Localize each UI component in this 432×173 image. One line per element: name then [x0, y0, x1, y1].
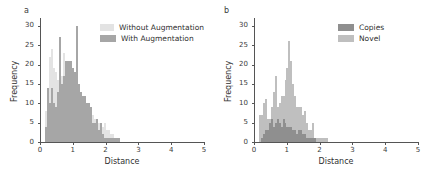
xaxis-tick-mark [40, 142, 41, 145]
xaxis-tick-mark [385, 142, 386, 145]
yaxis-tick-label: 25 [230, 42, 248, 49]
yaxis-tick-mark [38, 84, 41, 85]
legend-label: Without Augmentation [119, 24, 204, 32]
panel-a: a 051015202530012345 Distance Frequency … [0, 0, 216, 173]
xaxis-tick-mark [106, 142, 107, 145]
xaxis-tick-label: 4 [375, 147, 395, 154]
xaxis-tick-label: 3 [128, 147, 148, 154]
yaxis-tick-label: 5 [16, 119, 34, 126]
yaxis-tick-label: 0 [16, 139, 34, 146]
legend-swatch-icon [338, 35, 354, 42]
xaxis-tick-mark [287, 142, 288, 145]
xaxis-tick-mark [320, 142, 321, 145]
xaxis-tick-mark [73, 142, 74, 145]
yaxis-tick-mark [252, 45, 255, 46]
figure-histogram-distance: a 051015202530012345 Distance Frequency … [0, 0, 432, 173]
legend-swatch-icon [338, 24, 354, 31]
xaxis-tick-mark [171, 142, 172, 145]
yaxis-tick-label: 30 [230, 22, 248, 29]
xaxis-tick-label: 2 [310, 147, 330, 154]
legend-item: Copies [314, 22, 418, 33]
xaxis-tick-label: 1 [277, 147, 297, 154]
yaxis-tick-mark [252, 84, 255, 85]
xaxis-tick-label: 5 [194, 147, 214, 154]
histogram-bar [314, 138, 316, 142]
xaxis-tick-label: 4 [161, 147, 181, 154]
xaxis-tick-mark [204, 142, 205, 145]
panel-b: b 051015202530012345 Distance Frequency … [216, 0, 432, 173]
yaxis-tick-mark [38, 65, 41, 66]
panel-b-yaxis-title: Frequency [224, 61, 233, 102]
panel-b-legend: CopiesNovel [314, 22, 418, 44]
yaxis-tick-label: 5 [230, 119, 248, 126]
yaxis-tick-mark [252, 26, 255, 27]
panel-a-label: a [24, 6, 29, 15]
yaxis-tick-mark [252, 65, 255, 66]
xaxis-tick-label: 1 [63, 147, 83, 154]
histogram-bar [326, 138, 328, 142]
panel-b-label: b [224, 6, 229, 15]
legend-item: Without Augmentation [100, 22, 204, 33]
legend-label: With Augmentation [121, 35, 194, 43]
legend-label: Novel [359, 35, 380, 43]
legend-item: Novel [314, 33, 418, 44]
xaxis-tick-label: 2 [96, 147, 116, 154]
yaxis-tick-mark [38, 26, 41, 27]
yaxis-tick-label: 0 [230, 139, 248, 146]
xaxis-tick-mark [352, 142, 353, 145]
yaxis-tick-mark [38, 45, 41, 46]
legend-label: Copies [359, 24, 384, 32]
panel-a-yaxis-title: Frequency [10, 61, 19, 102]
xaxis-tick-label: 5 [408, 147, 428, 154]
panel-a-xaxis-title: Distance [40, 157, 204, 166]
legend-swatch-icon [100, 24, 114, 31]
histogram-bar [118, 138, 120, 142]
xaxis-tick-mark [418, 142, 419, 145]
xaxis-tick-mark [138, 142, 139, 145]
panel-b-xaxis-title: Distance [254, 157, 418, 166]
yaxis-tick-mark [252, 123, 255, 124]
yaxis-tick-mark [38, 123, 41, 124]
xaxis-tick-label: 0 [244, 147, 264, 154]
legend-swatch-icon [100, 35, 116, 42]
yaxis-tick-mark [252, 103, 255, 104]
xaxis-tick-label: 0 [30, 147, 50, 154]
yaxis-tick-label: 25 [16, 42, 34, 49]
legend-item: With Augmentation [100, 33, 204, 44]
xaxis-tick-mark [254, 142, 255, 145]
yaxis-tick-mark [38, 103, 41, 104]
xaxis-tick-label: 3 [342, 147, 362, 154]
panel-a-legend: Without AugmentationWith Augmentation [100, 22, 204, 44]
yaxis-tick-label: 30 [16, 22, 34, 29]
